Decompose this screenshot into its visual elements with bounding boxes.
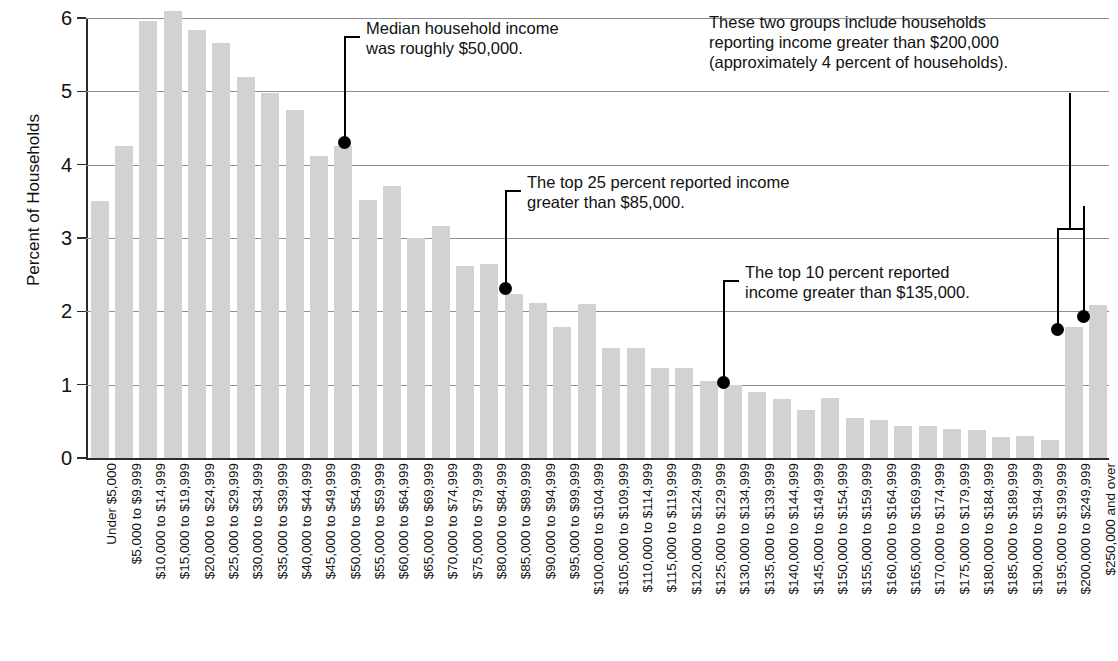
x-axis-tick-label: $125,000 to $129,999 xyxy=(714,463,728,594)
y-axis-tick xyxy=(77,164,86,166)
y-axis-tick xyxy=(77,17,86,19)
bar xyxy=(164,11,182,458)
bar xyxy=(529,303,547,458)
x-axis-tick-label: $50,000 to $54,999 xyxy=(349,463,363,579)
bar xyxy=(91,201,109,458)
x-axis-tick-label: Under $5,000 xyxy=(105,463,119,545)
x-axis-tick-label: $95,000 to $99,999 xyxy=(568,463,582,579)
x-axis-tick-label: $175,000 to $179,999 xyxy=(958,463,972,594)
bar xyxy=(846,418,864,458)
y-axis-tick-label: 5 xyxy=(61,81,72,101)
bar xyxy=(115,146,133,458)
bar xyxy=(334,146,352,458)
x-axis-tick-label: $110,000 to $114,999 xyxy=(641,463,655,592)
x-axis-tick-label: $20,000 to $24,999 xyxy=(203,463,217,579)
y-axis-tick-label: 2 xyxy=(61,301,72,321)
bar xyxy=(675,368,693,458)
x-axis-tick-label: $55,000 to $59,999 xyxy=(373,463,387,579)
y-axis-tick-label: 4 xyxy=(61,155,72,175)
annotation-bar-200k-marker xyxy=(1051,323,1064,336)
x-axis-tick-label: $185,000 to $189,999 xyxy=(1006,463,1020,594)
x-axis-tick-label: $25,000 to $29,999 xyxy=(227,463,241,579)
bar xyxy=(578,304,596,458)
x-axis-tick-label: $70,000 to $74,999 xyxy=(446,463,460,579)
y-axis-title: Percent of Households xyxy=(24,70,44,330)
annotation-median-income-leader-stem xyxy=(344,36,346,140)
bar xyxy=(894,426,912,458)
bar xyxy=(383,186,401,458)
bar xyxy=(821,398,839,458)
y-axis-tick-label: 6 xyxy=(61,8,72,28)
bar xyxy=(1016,436,1034,458)
x-axis-tick-label: $155,000 to $159,999 xyxy=(860,463,874,594)
x-axis-tick-label: $115,000 to $119,999 xyxy=(665,463,679,592)
x-axis-tick-label: $170,000 to $174,999 xyxy=(933,463,947,594)
x-axis-tick-label: $135,000 to $139,999 xyxy=(763,463,777,594)
bar xyxy=(1065,327,1083,458)
bar xyxy=(627,348,645,458)
annotation-top-10-percent-leader-stem xyxy=(723,280,725,380)
x-axis-tick-label: $10,000 to $14,999 xyxy=(154,463,168,579)
x-axis-tick-label: $250,000 and over xyxy=(1104,463,1118,576)
y-axis-tick xyxy=(77,311,86,313)
x-axis-tick-label: $150,000 to $154,999 xyxy=(836,463,850,594)
x-axis-tick-label: $35,000 to $39,999 xyxy=(276,463,290,579)
bar xyxy=(139,21,157,458)
bar xyxy=(724,385,742,458)
bar xyxy=(943,429,961,458)
annotation-bar-250k-marker xyxy=(1077,310,1090,323)
bar xyxy=(286,110,304,458)
bar xyxy=(553,327,571,458)
x-axis-line xyxy=(86,458,1109,460)
bar xyxy=(505,294,523,458)
annotation-top-25-percent: The top 25 percent reported income great… xyxy=(527,172,789,212)
x-axis-tick-label: $105,000 to $109,999 xyxy=(617,463,631,594)
x-axis-tick-label: $130,000 to $134,999 xyxy=(738,463,752,594)
bar xyxy=(700,381,718,458)
y-axis-tick xyxy=(77,384,86,386)
bar xyxy=(456,266,474,458)
x-axis-tick-label: $30,000 to $34,999 xyxy=(251,463,265,579)
x-axis-tick-label: $85,000 to $89,999 xyxy=(519,463,533,579)
bar xyxy=(748,392,766,458)
annotation-top-10-percent-marker xyxy=(717,376,730,389)
bar xyxy=(1089,305,1107,458)
x-axis-tick-label: $65,000 to $69,999 xyxy=(422,463,436,579)
y-axis-tick-label: 1 xyxy=(61,375,72,395)
annotation-top-10-percent: The top 10 percent reported income great… xyxy=(745,262,970,302)
y-axis-tick-label: 0 xyxy=(61,448,72,468)
x-axis-tick-label: $190,000 to $194,999 xyxy=(1031,463,1045,594)
annotation-top-25-percent-leader-top xyxy=(505,190,521,192)
bar xyxy=(237,77,255,458)
annotation-top-10-percent-leader-top xyxy=(723,280,739,282)
bar xyxy=(359,200,377,458)
annotation-top-25-percent-marker xyxy=(499,282,512,295)
bar xyxy=(188,30,206,458)
x-axis-tick-label: $75,000 to $79,999 xyxy=(471,463,485,579)
x-axis-tick-labels: Under $5,000$5,000 to $9,999$10,000 to $… xyxy=(86,463,1109,661)
bar xyxy=(310,156,328,458)
bar xyxy=(773,399,791,458)
x-axis-tick-label: $40,000 to $44,999 xyxy=(300,463,314,579)
x-axis-tick-label: $80,000 to $84,999 xyxy=(495,463,509,579)
annotation-two-groups-over-200k: These two groups include households repo… xyxy=(709,12,1008,72)
annotation-top-25-percent-leader-stem xyxy=(505,190,507,286)
bar xyxy=(602,348,620,458)
x-axis-tick-label: $5,000 to $9,999 xyxy=(130,463,144,564)
x-axis-tick-label: $200,000 to $249,999 xyxy=(1079,463,1093,594)
x-axis-tick-label: $180,000 to $184,999 xyxy=(982,463,996,594)
annotation-median-income: Median household income was roughly $50,… xyxy=(366,18,559,58)
bar xyxy=(968,430,986,458)
bar xyxy=(212,43,230,458)
bar xyxy=(432,226,450,458)
bar xyxy=(261,93,279,458)
x-axis-tick-label: $195,000 to $199,999 xyxy=(1055,463,1069,594)
bar-series xyxy=(86,18,1109,458)
bar xyxy=(797,410,815,458)
bar xyxy=(870,420,888,458)
bar xyxy=(651,368,669,458)
bar xyxy=(992,437,1010,458)
x-axis-tick-label: $90,000 to $94,999 xyxy=(544,463,558,579)
x-axis-tick-label: $120,000 to $124,999 xyxy=(690,463,704,594)
bar xyxy=(407,238,425,458)
